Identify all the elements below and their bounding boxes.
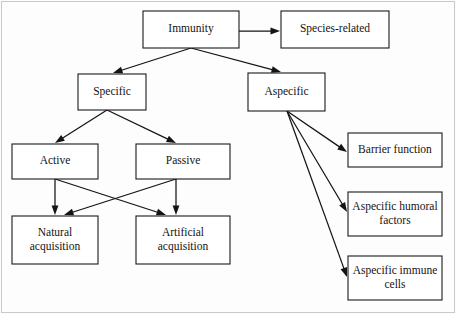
node-immunity: Immunity (143, 11, 239, 48)
edge-line (191, 48, 274, 70)
edge-line (71, 179, 176, 213)
node-label-active: Active (40, 154, 71, 166)
arrow-head-icon (55, 135, 65, 143)
node-label-natural_acquisition: Natural (38, 226, 72, 238)
edge-passive-artificial (173, 179, 180, 215)
node-aspecific_humoral_factors: Aspecific humoralfactors (348, 192, 442, 236)
edge-line (107, 110, 169, 140)
node-species_related: Species-related (281, 11, 389, 48)
edge-line (55, 179, 159, 213)
edge-aspecific-barrier (287, 111, 347, 152)
arrow-head-icon (339, 202, 347, 212)
edge-line (287, 111, 343, 206)
node-passive: Passive (136, 144, 230, 179)
node-artificial_acquisition: Artificialacquisition (136, 216, 230, 264)
node-specific: Specific (78, 74, 146, 110)
node-label-artificial_acquisition: acquisition (158, 240, 209, 253)
node-label-species_related: Species-related (300, 22, 370, 35)
diagram-canvas: ImmunitySpecies-relatedSpecificAspecific… (0, 0, 456, 314)
edge-aspecific-immune_cells (287, 111, 347, 277)
node-aspecific_immune_cells: Aspecific immunecells (348, 256, 442, 300)
node-natural_acquisition: Naturalacquisition (12, 216, 98, 264)
edge-specific-passive (107, 110, 176, 143)
arrow-head-icon (271, 66, 281, 73)
arrow-head-icon (337, 144, 347, 152)
node-barrier_function: Barrier function (348, 133, 442, 167)
node-label-artificial_acquisition: Artificial (162, 226, 204, 238)
nodes-layer: ImmunitySpecies-relatedSpecificAspecific… (12, 11, 442, 300)
node-label-natural_acquisition: acquisition (30, 240, 81, 253)
node-label-aspecific_humoral_factors: factors (379, 214, 411, 226)
edge-specific-active (55, 110, 107, 143)
arrow-head-icon (341, 267, 347, 277)
node-label-aspecific_humoral_factors: Aspecific humoral (352, 200, 437, 213)
node-active: Active (12, 144, 98, 179)
edge-active-natural (52, 179, 59, 215)
edge-immunity-species_related (239, 28, 280, 35)
edge-immunity-aspecific (191, 48, 281, 73)
edge-line (61, 110, 107, 139)
node-aspecific: Aspecific (248, 73, 325, 111)
edge-immunity-specific (113, 48, 191, 73)
arrow-head-icon (166, 136, 176, 143)
node-label-specific: Specific (93, 85, 131, 98)
node-label-passive: Passive (166, 154, 201, 166)
arrow-head-icon (64, 209, 74, 215)
arrow-head-icon (113, 67, 123, 73)
node-label-aspecific: Aspecific (264, 85, 308, 98)
arrow-head-icon (173, 206, 180, 216)
node-label-immunity: Immunity (168, 22, 214, 35)
node-label-aspecific_immune_cells: cells (384, 278, 406, 290)
arrow-head-icon (52, 206, 59, 216)
node-label-barrier_function: Barrier function (358, 143, 432, 155)
immunity-flowchart: ImmunitySpecies-relatedSpecificAspecific… (0, 0, 456, 314)
arrow-head-icon (156, 209, 166, 215)
node-label-aspecific_immune_cells: Aspecific immune (353, 264, 438, 277)
edge-line (287, 111, 341, 148)
arrow-head-icon (271, 28, 281, 35)
edge-line (287, 111, 345, 270)
edge-aspecific-humoral (287, 111, 347, 212)
edge-line (120, 48, 191, 71)
